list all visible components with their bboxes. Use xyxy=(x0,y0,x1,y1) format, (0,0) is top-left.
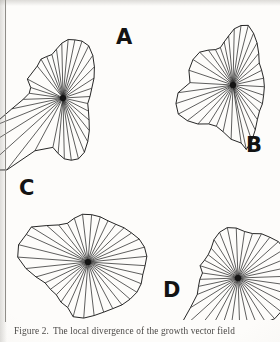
rose-spoke xyxy=(209,85,233,124)
rose-spoke xyxy=(88,256,147,262)
figure-caption: Figure 2.The local divergence of the gro… xyxy=(14,326,276,336)
rose-spoke xyxy=(7,98,63,170)
rose-center-node xyxy=(230,82,236,88)
rose-spoke xyxy=(233,85,260,111)
rose-spoke xyxy=(238,234,262,278)
rose-spoke xyxy=(12,98,63,109)
rose-spoke xyxy=(233,33,254,85)
rose-outline xyxy=(0,40,94,171)
rose-spoke xyxy=(214,240,238,278)
rose-spoke xyxy=(63,98,89,120)
rose-spoke xyxy=(26,234,88,262)
rose-spoke xyxy=(200,52,233,85)
panel-label-d: D xyxy=(163,280,180,301)
rose-spoke xyxy=(83,214,88,262)
rose-spoke xyxy=(88,262,94,316)
rose-spoke xyxy=(31,227,88,262)
rose-outline xyxy=(176,25,264,149)
rose-spoke xyxy=(88,262,137,292)
rose-spoke xyxy=(61,262,88,302)
rose-spoke xyxy=(88,262,141,284)
rose-diagram-d xyxy=(170,228,280,320)
panel-label-c: C xyxy=(19,178,34,199)
figure-image-area xyxy=(0,0,280,320)
figure-caption-label: Figure 2. xyxy=(14,326,49,336)
rose-spoke xyxy=(59,225,88,262)
rose-spoke xyxy=(26,262,88,269)
figure-page: A B C D Figure 2.The local divergence of… xyxy=(0,0,280,342)
rose-center-node xyxy=(60,95,66,101)
rose-spoke xyxy=(0,98,63,170)
panel-label-b: B xyxy=(246,135,262,156)
rose-center-node xyxy=(85,259,91,265)
rose-spoke xyxy=(238,278,280,303)
figure-caption-text: The local divergence of the growth vecto… xyxy=(53,326,235,336)
rose-spoke xyxy=(233,63,259,85)
rose-diagram-b xyxy=(176,25,264,149)
rose-spoke xyxy=(88,262,130,299)
rose-spoke xyxy=(63,98,84,152)
rose-spoke xyxy=(88,224,116,262)
rose-spoke xyxy=(238,258,280,278)
rose-diagram-c xyxy=(18,214,147,318)
rose-spoke xyxy=(238,278,257,320)
column-rule-divider xyxy=(5,0,6,322)
rose-spoke xyxy=(50,262,88,289)
rose-diagram-a xyxy=(0,40,94,171)
panel-label-a: A xyxy=(116,27,132,48)
divergence-rose-plots xyxy=(0,0,280,320)
rose-spoke xyxy=(238,278,280,294)
rose-spoke xyxy=(88,228,124,262)
rose-spoke xyxy=(178,85,233,114)
rose-spoke xyxy=(0,98,63,127)
rose-spoke xyxy=(63,67,94,98)
rose-center-node xyxy=(235,275,241,281)
